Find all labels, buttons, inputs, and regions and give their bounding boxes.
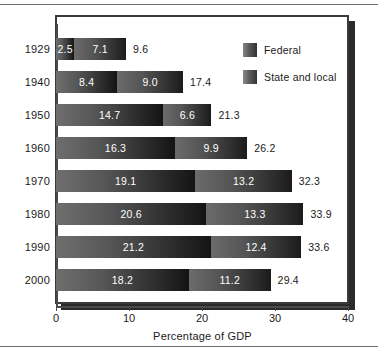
y-axis-tick-label: 1960 [14,137,50,159]
stacked-bar[interactable]: 20.613.3 [56,203,303,225]
bar-segment-value-federal: 21.2 [56,236,211,258]
x-axis-tick-label: 20 [187,312,217,324]
bar-segment-value-federal: 19.1 [56,170,195,192]
bar-segment-federal[interactable]: 2.5 [56,38,74,60]
bar-segment-federal[interactable]: 8.4 [56,71,117,93]
state-and-local-swatch-icon [243,70,257,84]
x-axis-tick [56,306,57,311]
bar-total-label: 32.3 [299,170,320,192]
bar-segment-federal[interactable]: 18.2 [56,269,189,291]
legend-item[interactable]: Federal [243,41,336,59]
x-axis-tick [202,306,203,311]
x-axis-tick [348,306,349,311]
stacked-bar[interactable]: 14.76.6 [56,104,211,126]
stacked-bar[interactable]: 21.212.4 [56,236,301,258]
legend-item[interactable]: State and local [243,68,336,86]
bar-segment-state-and-local[interactable]: 6.6 [163,104,211,126]
y-axis-tick-label: 1940 [14,71,50,93]
bar-segment-state-and-local[interactable]: 11.2 [189,269,271,291]
bar-segment-value-federal: 14.7 [56,104,163,126]
x-axis-tick-label: 10 [114,312,144,324]
bar-segment-state-and-local[interactable]: 12.4 [211,236,302,258]
bar-total-label: 17.4 [190,71,211,93]
figure: 19292.57.19.619408.49.017.4195014.76.621… [0,0,378,359]
stacked-bar[interactable]: 18.211.2 [56,269,271,291]
bar-segment-value-state-and-local: 9.9 [175,137,247,159]
bar-segment-federal[interactable]: 19.1 [56,170,195,192]
bar-segment-value-state-and-local: 6.6 [163,104,211,126]
bar-segment-value-federal: 20.6 [56,203,206,225]
y-axis-tick-label: 2000 [14,269,50,291]
bar-segment-state-and-local[interactable]: 9.0 [117,71,183,93]
bar-segment-federal[interactable]: 16.3 [56,137,175,159]
bar-segment-value-state-and-local: 11.2 [189,269,271,291]
y-axis-line [56,24,58,306]
bar-segment-state-and-local[interactable]: 13.3 [206,203,303,225]
x-axis-title: Percentage of GDP [56,330,349,342]
x-axis-tick [129,306,130,311]
bar-total-label: 9.6 [133,38,148,60]
x-axis-tick-label: 0 [41,312,71,324]
bar-total-label: 21.3 [218,104,239,126]
stacked-bar[interactable]: 8.49.0 [56,71,183,93]
bar-segment-state-and-local[interactable]: 9.9 [175,137,247,159]
y-axis-tick-label: 1970 [14,170,50,192]
chart-legend: FederalState and local [243,41,336,95]
bar-total-label: 33.9 [310,203,331,225]
bar-segment-value-state-and-local: 12.4 [211,236,302,258]
x-axis-tick-label: 40 [333,312,363,324]
stacked-bar[interactable]: 2.57.1 [56,38,126,60]
y-axis-tick-label: 1980 [14,203,50,225]
y-axis-tick-label: 1929 [14,38,50,60]
bar-segment-value-state-and-local: 9.0 [117,71,183,93]
bar-segment-value-federal: 16.3 [56,137,175,159]
x-axis-tick-label: 30 [260,312,290,324]
bar-segment-federal[interactable]: 21.2 [56,236,211,258]
federal-swatch-icon [243,43,257,57]
y-axis-tick-label: 1950 [14,104,50,126]
stacked-bar[interactable]: 16.39.9 [56,137,247,159]
x-axis-tick [275,306,276,311]
bar-segment-value-federal: 18.2 [56,269,189,291]
bar-segment-state-and-local[interactable]: 7.1 [74,38,126,60]
bar-total-label: 33.6 [308,236,329,258]
bar-segment-value-federal: 8.4 [56,71,117,93]
bar-segment-value-state-and-local: 13.2 [195,170,291,192]
bar-segment-federal[interactable]: 14.7 [56,104,163,126]
stacked-bar[interactable]: 19.113.2 [56,170,292,192]
bar-segment-federal[interactable]: 20.6 [56,203,206,225]
y-axis-tick-label: 1990 [14,236,50,258]
bar-total-label: 29.4 [278,269,299,291]
bar-segment-state-and-local[interactable]: 13.2 [195,170,291,192]
bar-segment-value-federal: 2.5 [56,38,74,60]
legend-label: State and local [264,71,336,83]
bar-segment-value-state-and-local: 7.1 [74,38,126,60]
legend-label: Federal [264,44,301,56]
bar-total-label: 26.2 [254,137,275,159]
bar-segment-value-state-and-local: 13.3 [206,203,303,225]
